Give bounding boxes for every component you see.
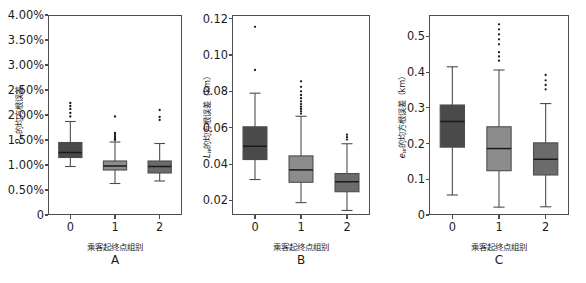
boxplot-outlier xyxy=(254,26,256,28)
boxplot-outlier xyxy=(346,138,348,140)
boxplot-outlier xyxy=(545,84,547,86)
panel-A-x-tick-mark xyxy=(159,215,160,219)
boxplot-outlier xyxy=(69,115,71,117)
panel-A-y-tick-mark xyxy=(45,139,49,140)
panel-C-x-axis-label: 乘客起终点组别 xyxy=(471,240,527,252)
panel-B-y-tick-mark xyxy=(229,54,233,55)
boxplot-outlier xyxy=(254,69,256,71)
boxplot-box xyxy=(440,67,464,195)
panel-A-y-tick-mark xyxy=(45,214,49,215)
boxplot-box xyxy=(289,80,313,202)
panel-A-y-tick-mark xyxy=(45,14,49,15)
panel-B-x-tick-mark xyxy=(300,215,301,219)
panel-B-y-tick-mark xyxy=(229,200,233,201)
panel-A-y-tick-mark xyxy=(45,64,49,65)
boxplot-outlier xyxy=(69,105,71,107)
boxplot-box xyxy=(534,74,558,207)
panel-C-y-tick-mark xyxy=(426,72,430,73)
panel-C-y-tick-mark xyxy=(426,179,430,180)
boxplot-outlier xyxy=(300,112,302,114)
panel-B-letter: B xyxy=(297,253,305,267)
boxplot-outlier xyxy=(545,79,547,81)
boxplot-outlier xyxy=(300,80,302,82)
panel-A-y-tick-mark xyxy=(45,189,49,190)
boxplot-outlier xyxy=(300,97,302,99)
panel-C-x-tick-label: 0 xyxy=(449,220,456,234)
panel-C-y-tick-mark xyxy=(426,214,430,215)
boxplot-outlier xyxy=(300,110,302,112)
boxplot-outlier xyxy=(498,51,500,53)
panel-A-x-tick-label: 1 xyxy=(111,220,118,234)
panel-A-y-tick-mark xyxy=(45,114,49,115)
boxplot-outlier xyxy=(545,88,547,90)
panel-B: Lw的均方根误差（km） 0.020.040.060.080.100.12 01… xyxy=(190,0,385,283)
boxplot-outlier xyxy=(300,105,302,107)
boxplot-box xyxy=(103,115,126,183)
boxplot-outlier xyxy=(69,112,71,114)
panel-C-x-tick-label: 2 xyxy=(542,220,549,234)
panel-B-y-tick-mark xyxy=(229,164,233,165)
boxplot-outlier xyxy=(114,115,116,117)
boxplot-outlier xyxy=(159,109,161,111)
boxplot-outlier xyxy=(498,55,500,57)
panel-B-y-tick-mark xyxy=(229,127,233,128)
boxplot-outlier xyxy=(346,136,348,138)
panel-C: ew的均方根误差（km） 00.10.20.30.40.5 012 乘客起终点组… xyxy=(383,0,578,283)
boxplot-outlier xyxy=(498,33,500,35)
panel-B-x-tick-label: 1 xyxy=(297,220,304,234)
boxplot-outlier xyxy=(300,94,302,96)
boxplot-outlier xyxy=(300,90,302,92)
panel-C-y-tick-mark xyxy=(426,107,430,108)
panel-C-x-tick-label: 1 xyxy=(495,220,502,234)
boxplot-outlier xyxy=(498,43,500,45)
boxplot-outlier xyxy=(159,116,161,118)
boxplot-outlier xyxy=(498,38,500,40)
boxplot-box xyxy=(148,109,171,181)
panel-B-x-tick-mark xyxy=(346,215,347,219)
panel-B-x-tick-mark xyxy=(254,215,255,219)
panel-C-y-tick-mark xyxy=(426,36,430,37)
boxplot-box xyxy=(487,23,511,207)
panel-A-y-tick-mark xyxy=(45,164,49,165)
boxplot-outlier xyxy=(300,100,302,102)
panel-A-x-tick-label: 2 xyxy=(156,220,163,234)
boxplot-outlier xyxy=(114,136,116,138)
panel-B-x-axis-label: 乘客起终点组别 xyxy=(273,240,329,252)
boxplot-outlier xyxy=(300,103,302,105)
boxplot-outlier xyxy=(498,23,500,25)
boxplot-box xyxy=(335,133,359,210)
panel-B-x-tick-label: 2 xyxy=(343,220,350,234)
boxplot-outlier xyxy=(159,119,161,121)
panel-B-x-tick-label: 0 xyxy=(251,220,258,234)
boxplot-outlier xyxy=(69,102,71,104)
boxplot-outlier xyxy=(346,133,348,135)
boxplot-box xyxy=(243,26,267,180)
boxplot-box xyxy=(59,102,82,167)
panel-A: Pw的均方根误差 00.50%1.00%1.50%2.00%2.50%3.00%… xyxy=(0,0,195,283)
boxplot-outlier xyxy=(114,132,116,134)
boxplot-figure: Pw的均方根误差 00.50%1.00%1.50%2.00%2.50%3.00%… xyxy=(0,0,586,283)
panel-A-y-tick-mark xyxy=(45,89,49,90)
panel-A-y-tick-mark xyxy=(45,39,49,40)
panel-C-x-tick-mark xyxy=(452,215,453,219)
panel-C-y-tick-mark xyxy=(426,143,430,144)
panel-A-x-tick-mark xyxy=(114,215,115,219)
panel-A-x-tick-label: 0 xyxy=(67,220,74,234)
panel-C-x-tick-mark xyxy=(545,215,546,219)
boxplot-outlier xyxy=(300,108,302,110)
boxplot-outlier xyxy=(300,86,302,88)
boxplot-outlier xyxy=(69,108,71,110)
panel-A-x-axis-label: 乘客起终点组别 xyxy=(87,240,143,252)
panel-A-x-tick-mark xyxy=(70,215,71,219)
panel-A-letter: A xyxy=(111,253,119,267)
panel-C-x-tick-mark xyxy=(498,215,499,219)
boxplot-outlier xyxy=(498,60,500,62)
boxplot-outlier xyxy=(545,74,547,76)
panel-B-y-tick-mark xyxy=(229,91,233,92)
panel-B-y-tick-mark xyxy=(229,18,233,19)
boxplot-outlier xyxy=(498,28,500,30)
boxplot-outlier xyxy=(114,134,116,136)
panel-C-letter: C xyxy=(495,253,503,267)
